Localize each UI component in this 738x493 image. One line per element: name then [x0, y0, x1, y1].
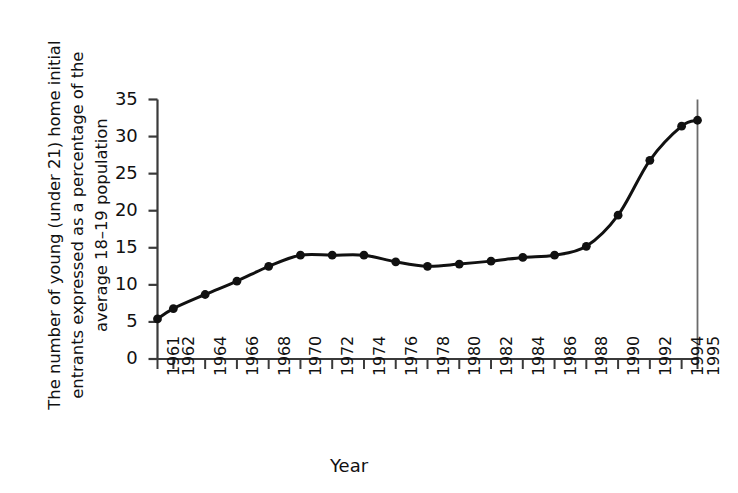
data-point-marker: [153, 315, 162, 324]
x-tick-label: 1972: [338, 336, 357, 376]
x-tick-label: 1966: [243, 336, 262, 376]
x-tick-label: 1986: [561, 336, 580, 376]
data-point-marker: [582, 242, 591, 251]
x-tick-label: 1974: [370, 336, 389, 376]
y-tick-label: 15: [104, 236, 138, 257]
data-point-marker: [264, 262, 273, 271]
x-tick-label: 1968: [275, 336, 294, 376]
data-point-marker: [677, 122, 686, 131]
data-line: [158, 120, 698, 319]
data-point-marker: [423, 262, 432, 271]
data-point-marker: [693, 116, 702, 125]
data-point-marker: [360, 251, 369, 260]
chart-figure: The number of young (under 21) home init…: [0, 0, 738, 493]
y-tick-label: 20: [104, 199, 138, 220]
data-point-marker: [201, 290, 210, 299]
data-point-marker: [328, 251, 337, 260]
y-tick-label: 5: [104, 310, 138, 331]
series-group: [153, 116, 702, 324]
data-point-marker: [296, 251, 305, 260]
x-tick-label: 1980: [465, 336, 484, 376]
y-tick-label: 10: [104, 273, 138, 294]
data-point-marker: [614, 211, 623, 220]
data-point-marker: [487, 257, 496, 266]
y-tick-label: 35: [104, 88, 138, 109]
x-tick-label: 1978: [434, 336, 453, 376]
x-tick-label: 1964: [211, 336, 230, 376]
x-tick-label: 1990: [624, 336, 643, 376]
x-tick-label: 1992: [656, 336, 675, 376]
data-point-marker: [550, 251, 559, 260]
y-tick-label: 30: [104, 125, 138, 146]
data-point-marker: [391, 257, 400, 266]
data-point-marker: [233, 277, 242, 286]
y-tick-label: 25: [104, 162, 138, 183]
x-tick-label: 1962: [179, 336, 198, 376]
data-point-marker: [455, 260, 464, 269]
x-tick-label: 1995: [704, 336, 723, 376]
x-tick-label: 1982: [497, 336, 516, 376]
data-point-marker: [169, 304, 178, 313]
x-tick-label: 1970: [306, 336, 325, 376]
x-tick-label: 1984: [529, 336, 548, 376]
axes-group: [149, 100, 698, 370]
data-point-marker: [518, 253, 527, 262]
x-axis-title: Year: [330, 455, 368, 476]
x-tick-label: 1976: [402, 336, 421, 376]
x-tick-label: 1988: [592, 336, 611, 376]
data-point-marker: [645, 156, 654, 165]
y-tick-label: 0: [104, 347, 138, 368]
